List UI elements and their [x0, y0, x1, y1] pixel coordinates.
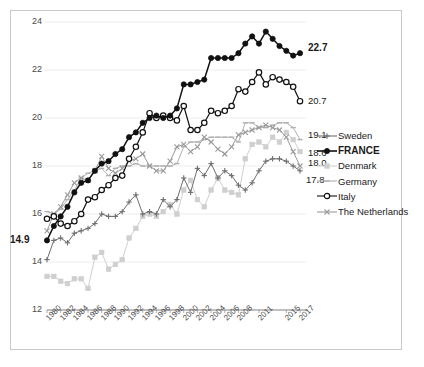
legend-label: Italy: [338, 191, 355, 202]
legend-marker-icon: [316, 145, 338, 157]
legend-item-sweden[interactable]: Sweden: [316, 128, 422, 143]
legend-marker-icon: [316, 206, 338, 218]
y-tick-label: 24: [20, 16, 42, 26]
legend-label: Germany: [338, 176, 377, 187]
series-germany: [44, 123, 302, 214]
legend-item-italy[interactable]: Italy: [316, 189, 422, 204]
legend-marker-icon: [316, 160, 338, 172]
chart-legend: SwedenFRANCEDenmarkGermanyItalyThe Nethe…: [316, 128, 422, 219]
legend-item-denmark[interactable]: Denmark: [316, 158, 422, 173]
y-tick-label: 18: [20, 160, 42, 170]
legend-label: Sweden: [338, 130, 372, 141]
value-label: 20.7: [308, 95, 327, 106]
legend-item-the-netherlands[interactable]: The Netherlands: [316, 204, 422, 219]
legend-marker-icon: [316, 175, 338, 187]
legend-marker-icon: [316, 190, 338, 202]
y-tick-label: 14: [20, 256, 42, 266]
y-tick-label: 20: [20, 112, 42, 122]
value-label: 22.7: [308, 42, 327, 53]
legend-label: Denmark: [338, 160, 377, 171]
y-tick-label: 12: [20, 304, 42, 314]
legend-item-germany[interactable]: Germany: [316, 174, 422, 189]
chart-screenshot: 12141618202224 1980198219841986198819901…: [0, 0, 424, 367]
legend-label: FRANCE: [338, 145, 380, 156]
legend-marker-icon: [316, 130, 338, 142]
y-tick-label: 22: [20, 64, 42, 74]
value-label: 14.9: [10, 234, 29, 245]
y-tick-label: 16: [20, 208, 42, 218]
legend-label: The Netherlands: [338, 206, 408, 217]
legend-item-france[interactable]: FRANCE: [316, 143, 422, 158]
